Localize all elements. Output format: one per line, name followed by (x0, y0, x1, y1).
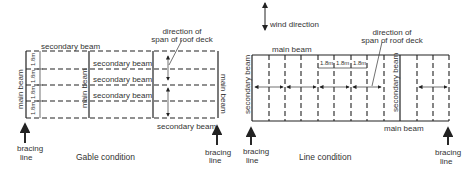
roof-bracing-diagram: 1.8m 1.8m 1.8m 1.8m secondary beam secon… (0, 0, 476, 175)
bracing-line-label: bracing (17, 144, 43, 153)
gable-condition-caption: Gable condition (76, 152, 135, 162)
bracing-line-label: line (246, 156, 259, 165)
gable-condition-diagram: 1.8m 1.8m 1.8m 1.8m secondary beam secon… (16, 27, 231, 165)
bracing-line-label: line (209, 156, 222, 165)
main-beam-label: main beam (219, 74, 228, 114)
bracing-line-label: bracing (435, 148, 461, 157)
deck-direction-label: span of roof deck (151, 35, 213, 44)
dimension-label: 1.8m (30, 102, 36, 115)
line-condition-diagram: wind direction 1.8m 1.8m 1.8m main beam (243, 3, 461, 166)
secondary-beam-label: secondary beam (243, 55, 252, 114)
main-beam-label: main beam (80, 68, 89, 108)
line-condition-caption: Line condition (299, 152, 352, 162)
bracing-line-label: line (440, 157, 453, 166)
main-beam-label: main beam (384, 124, 424, 133)
dimension-label: 1.8m (30, 70, 36, 83)
secondary-beam-label: secondary beam (93, 59, 152, 68)
secondary-beam-label: secondary beam (41, 42, 100, 51)
dimension-label: 1.8m (30, 53, 36, 66)
main-beam-label: main beam (272, 45, 312, 54)
dimension-label: 1.8m (30, 86, 36, 99)
wind-direction-label: wind direction (269, 20, 319, 29)
dimension-label: 1.8m (320, 60, 333, 66)
secondary-beam-label: secondary beam (93, 75, 152, 84)
bracing-line-label: bracing (243, 147, 269, 156)
dimension-label: 1.8m (336, 60, 349, 66)
secondary-beam-label: secondary beam (157, 122, 216, 131)
main-beam-label: main beam (16, 69, 25, 109)
secondary-beam-label: secondary beam (391, 53, 400, 112)
bracing-line-label: line (20, 153, 33, 162)
leader-line (372, 42, 382, 86)
dimension-label: 1.8m (353, 60, 366, 66)
secondary-beam-label: secondary beam (93, 91, 152, 100)
deck-direction-label: span of roof deck (361, 36, 423, 45)
